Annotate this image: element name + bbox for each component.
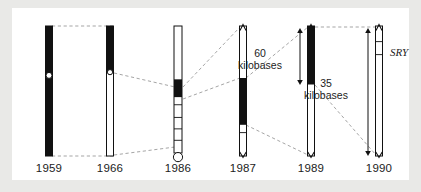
kb-35-value: 35 (292, 78, 360, 90)
kilobases-label-35: 35 kilobases (292, 78, 360, 101)
1986-band-bottom-to-1987-black-top (183, 78, 240, 99)
chromosome-1966 (107, 26, 114, 156)
centromere-dot-1959 (46, 72, 52, 78)
1966-centromere-to-1986-band (114, 73, 175, 87)
arrow-35kb-head-bottom (365, 151, 371, 156)
chromosome-body-1990 (376, 26, 383, 156)
arrow-35kb-head-top (365, 28, 371, 33)
arrow-35kb (365, 28, 371, 156)
segment-whole-arm-1959 (46, 26, 53, 156)
year-label-1989: 1989 (285, 162, 337, 174)
segment-candidate-interval-1989 (308, 26, 315, 85)
figure-panel: 60 kilobases 35 kilobases SRY 1959196619… (12, 8, 409, 180)
kb-60-unit: kilobases (226, 60, 294, 72)
1987-black-bottom-to-1989-bottom (246, 125, 308, 155)
year-label-1990: 1990 (353, 162, 405, 174)
1966-bottom-to-1986-bottom (114, 147, 175, 155)
kb-60-value: 60 (226, 48, 294, 60)
kilobases-label-60: 60 kilobases (226, 48, 294, 71)
segment-candidate-interval-1987 (240, 78, 247, 125)
chromosome-1959 (46, 26, 53, 156)
chromosome-1987 (240, 25, 247, 158)
year-label-1966: 1966 (84, 162, 136, 174)
chromosome-1990 (376, 25, 383, 158)
arrow-60kb (297, 28, 303, 85)
sry-gene-label: SRY (390, 46, 408, 58)
segment-candidate-band-1986 (174, 79, 182, 97)
centromere-dot-1966 (107, 70, 112, 75)
arrow-60kb-head-top (297, 28, 303, 33)
year-label-1986: 1986 (152, 162, 204, 174)
segment-short-arm-1966 (107, 26, 114, 72)
year-label-1959: 1959 (23, 162, 75, 174)
bottom-circle-1986 (173, 153, 182, 162)
chromosome-1986 (173, 26, 182, 162)
kb-35-unit: kilobases (292, 90, 360, 102)
year-label-1987: 1987 (217, 162, 269, 174)
